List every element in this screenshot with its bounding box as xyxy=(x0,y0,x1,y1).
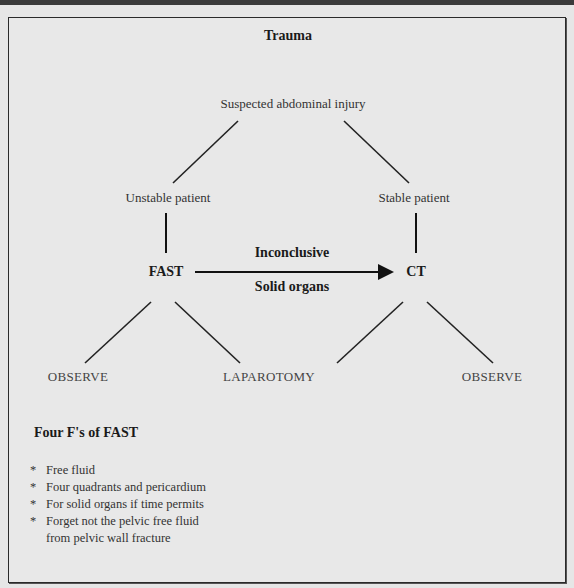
outcome-observe-right: OBSERVE xyxy=(462,369,522,385)
bullet-icon: * xyxy=(30,462,36,479)
list-item-continuation: from pelvic wall fracture xyxy=(30,530,206,547)
list-item-text: Four quadrants and pericardium xyxy=(46,480,206,494)
line-fast-to-observe xyxy=(85,302,151,363)
list-item: *For solid organs if time permits xyxy=(30,496,206,513)
arrow-label-solid-organs: Solid organs xyxy=(255,279,329,295)
node-fast: FAST xyxy=(149,264,184,280)
node-stable-patient: Stable patient xyxy=(378,190,449,206)
bullet-icon: * xyxy=(30,479,36,496)
diagram-title: Trauma xyxy=(264,28,312,44)
four-fs-list: *Free fluid *Four quadrants and pericard… xyxy=(30,462,206,547)
list-item-text: from pelvic wall fracture xyxy=(46,531,171,545)
outcome-observe-left: OBSERVE xyxy=(48,369,108,385)
node-suspected-abdominal-injury: Suspected abdominal injury xyxy=(220,96,365,112)
line-fast-to-laparotomy xyxy=(175,302,240,363)
four-fs-title: Four F's of FAST xyxy=(34,425,138,441)
list-item: *Four quadrants and pericardium xyxy=(30,479,206,496)
bullet-icon: * xyxy=(30,513,36,530)
node-unstable-patient: Unstable patient xyxy=(126,190,211,206)
line-root-to-stable xyxy=(344,121,409,183)
list-item-text: Free fluid xyxy=(46,463,95,477)
arrow-label-inconclusive: Inconclusive xyxy=(255,245,330,261)
list-item-text: Forget not the pelvic free fluid xyxy=(46,514,199,528)
outcome-laparotomy: LAPAROTOMY xyxy=(223,369,315,385)
node-ct: CT xyxy=(406,264,425,280)
list-item: *Free fluid xyxy=(30,462,206,479)
list-item-text: For solid organs if time permits xyxy=(46,497,204,511)
line-ct-to-laparotomy xyxy=(337,302,403,363)
bullet-icon: * xyxy=(30,496,36,513)
list-item: *Forget not the pelvic free fluid xyxy=(30,513,206,530)
line-root-to-unstable xyxy=(173,121,238,183)
line-ct-to-observe xyxy=(427,302,493,363)
